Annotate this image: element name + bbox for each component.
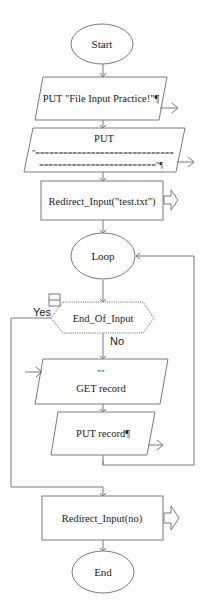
block-arrow-icon xyxy=(164,190,178,210)
input-parallelogram xyxy=(35,359,168,404)
put-separator-node[interactable]: PUT "============================== ====… xyxy=(24,128,194,172)
end-label: End xyxy=(94,566,112,578)
loop-node[interactable]: Loop xyxy=(71,233,135,279)
redirect-no-node[interactable]: Redirect_Input(no) xyxy=(42,496,179,540)
put-separator-label-3: ========================="¶ xyxy=(39,161,163,170)
yes-label: Yes xyxy=(33,306,51,318)
put-separator-label-1: PUT xyxy=(94,133,114,144)
output-arrow-icon xyxy=(160,103,178,113)
connector-yes-branch xyxy=(11,318,103,496)
get-record-label: GET record xyxy=(76,383,126,394)
put-title-node[interactable]: PUT "File Input Practice!"¶ xyxy=(35,77,178,120)
end-of-input-decision[interactable]: End_Of_Input xyxy=(51,302,154,333)
block-arrow-icon xyxy=(164,506,179,530)
collapse-toggle-icon[interactable] xyxy=(49,294,60,306)
redirect-file-label: Redirect_Input("test.txt") xyxy=(49,196,156,208)
output-arrow-icon xyxy=(148,440,163,450)
redirect-no-label: Redirect_Input(no) xyxy=(62,513,143,525)
input-arrow-icon xyxy=(25,367,42,377)
end-node[interactable]: End xyxy=(72,551,134,593)
put-record-node[interactable]: PUT record¶ xyxy=(51,412,163,455)
get-prompt-label: "" xyxy=(97,368,105,378)
flowchart-canvas: Start PUT "File Input Practice!"¶ PUT "=… xyxy=(0,0,213,604)
loop-label: Loop xyxy=(91,250,115,262)
output-arrow-icon xyxy=(177,157,194,167)
start-label: Start xyxy=(92,38,113,50)
get-record-node[interactable]: "" GET record xyxy=(25,359,168,404)
start-node[interactable]: Start xyxy=(71,24,133,64)
put-record-label: PUT record¶ xyxy=(76,428,130,439)
redirect-file-node[interactable]: Redirect_Input("test.txt") xyxy=(41,181,178,220)
put-separator-label-2: "============================== xyxy=(32,149,174,158)
no-label: No xyxy=(110,335,124,347)
decision-label: End_Of_Input xyxy=(73,313,134,324)
put-title-label: PUT "File Input Practice!"¶ xyxy=(43,93,160,104)
